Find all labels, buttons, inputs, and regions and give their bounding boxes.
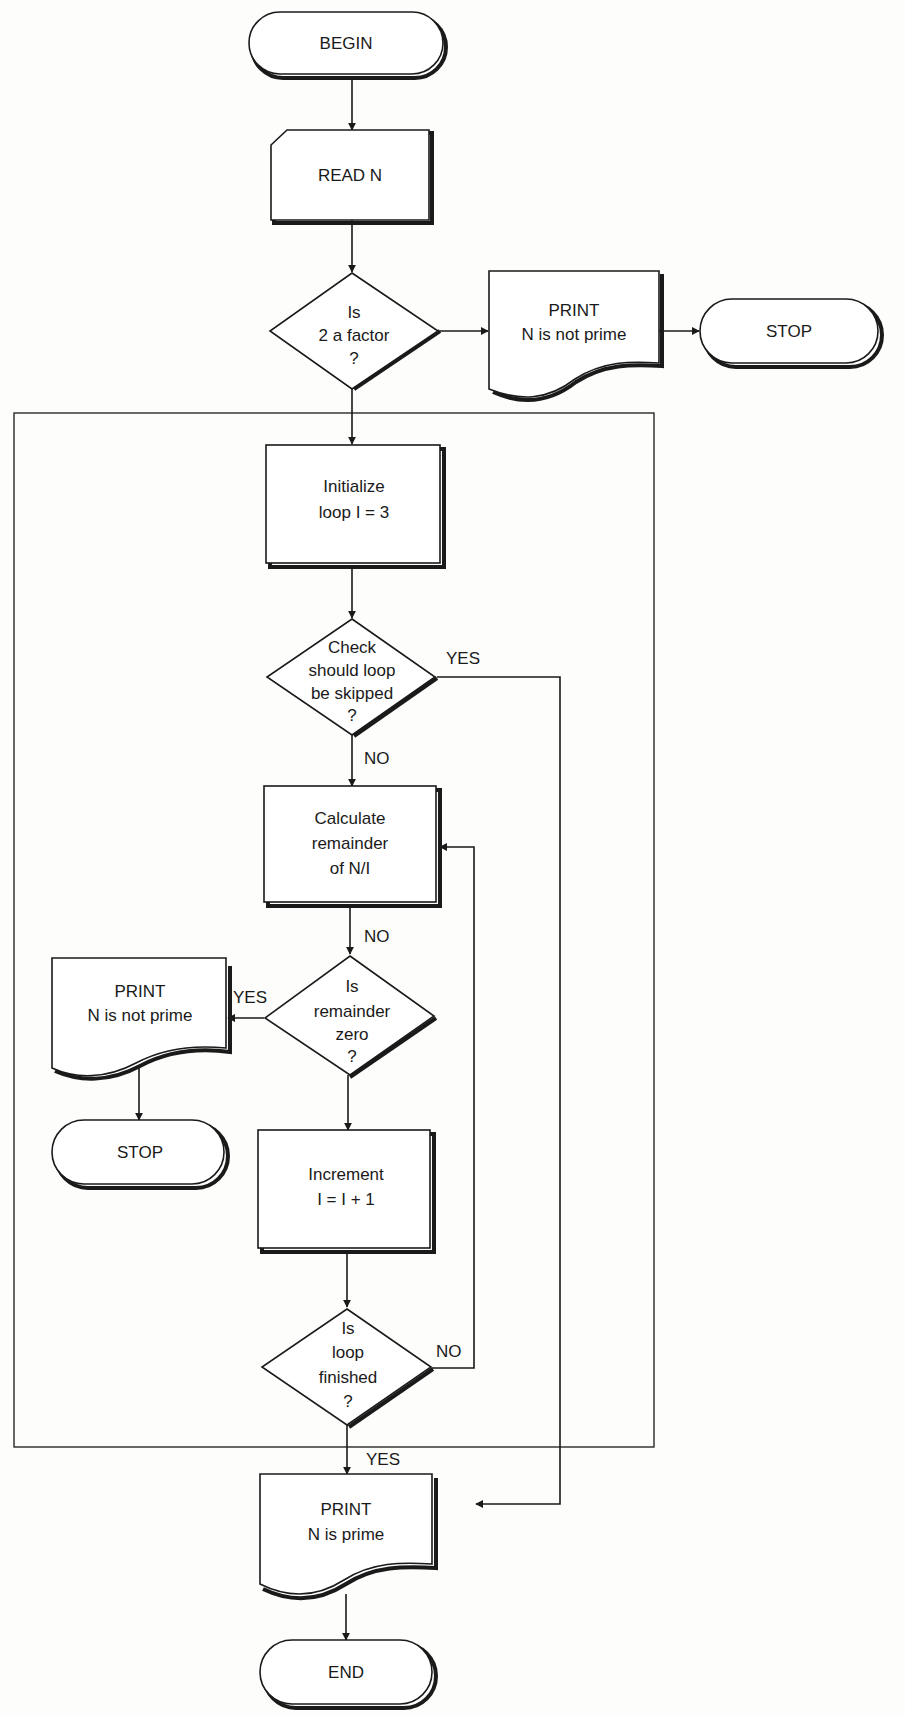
decision-two-factor-line1: Is: [347, 303, 360, 322]
node-print-not-prime-top: PRINT N is not prime: [489, 271, 662, 400]
remzero-line3: zero: [335, 1025, 368, 1044]
end-label: END: [328, 1663, 364, 1682]
node-increment: Increment I = I + 1: [258, 1130, 434, 1252]
calc-line3: of N/I: [330, 859, 371, 878]
init-line1: Initialize: [323, 477, 384, 496]
label-rem-yes: YES: [233, 988, 267, 1007]
print-left-line2: N is not prime: [88, 1006, 193, 1025]
skip-line2: should loop: [309, 661, 396, 680]
node-decision-two-factor: Is 2 a factor ?: [270, 273, 440, 389]
increment-line1: Increment: [308, 1165, 384, 1184]
remzero-line2: remainder: [314, 1002, 391, 1021]
node-stop-left: STOP: [52, 1120, 228, 1188]
loopdone-line2: loop: [332, 1343, 364, 1362]
node-decision-loop-finished: Is loop finished ?: [262, 1309, 433, 1427]
calc-line1: Calculate: [315, 809, 386, 828]
node-decision-remainder-zero: Is remainder zero ?: [265, 956, 436, 1077]
decision-two-factor-line2: 2 a factor: [319, 326, 390, 345]
increment-line2: I = I + 1: [317, 1190, 375, 1209]
node-begin-label: BEGIN: [320, 34, 373, 53]
node-initialize-loop: Initialize loop I = 3: [266, 445, 444, 567]
print-top-line1: PRINT: [549, 301, 600, 320]
stop-top-label: STOP: [766, 322, 812, 341]
print-prime-line2: N is prime: [308, 1525, 385, 1544]
init-line2: loop I = 3: [319, 503, 389, 522]
node-print-prime: PRINT N is prime: [260, 1474, 436, 1598]
node-decision-skip-check: Check should loop be skipped ?: [267, 619, 437, 736]
print-left-line1: PRINT: [115, 982, 166, 1001]
decision-two-factor-line3: ?: [349, 349, 358, 368]
calc-line2: remainder: [312, 834, 389, 853]
loopdone-line1: Is: [341, 1319, 354, 1338]
remzero-line1: Is: [345, 977, 358, 996]
edge-skip-yes: [437, 677, 560, 1504]
label-calc-no: NO: [364, 927, 390, 946]
node-read-label: READ N: [318, 166, 382, 185]
skip-line1: Check: [328, 638, 377, 657]
node-end: END: [260, 1640, 436, 1708]
node-print-not-prime-left: PRINT N is not prime: [52, 958, 230, 1079]
skip-line4: ?: [347, 706, 356, 725]
print-top-line2: N is not prime: [522, 325, 627, 344]
node-begin: BEGIN: [249, 12, 446, 78]
edge-loop-no: [432, 847, 474, 1368]
remzero-line4: ?: [347, 1047, 356, 1066]
print-prime-line1: PRINT: [321, 1500, 372, 1519]
flowchart-canvas: BEGIN READ N Is 2 a factor ? PRINT N is …: [0, 0, 905, 1716]
label-skip-no: NO: [364, 749, 390, 768]
node-calculate-remainder: Calculate remainder of N/I: [264, 786, 440, 906]
label-skip-yes: YES: [446, 649, 480, 668]
node-read-input: READ N: [271, 130, 432, 223]
stop-left-label: STOP: [117, 1143, 163, 1162]
label-loop-no: NO: [436, 1342, 462, 1361]
loopdone-line3: finished: [319, 1368, 378, 1387]
label-loop-yes: YES: [366, 1450, 400, 1469]
node-stop-top: STOP: [700, 299, 882, 367]
skip-line3: be skipped: [311, 684, 393, 703]
loopdone-line4: ?: [343, 1392, 352, 1411]
